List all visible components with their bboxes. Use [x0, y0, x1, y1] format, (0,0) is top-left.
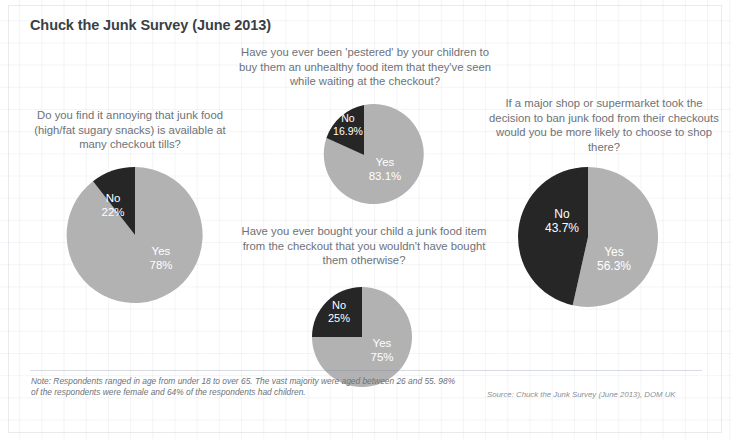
survey-note: Note: Respondents ranged in age from und… [31, 376, 461, 399]
question-bought-junk-food-otherwise-not: Have you ever bought your child a junk f… [236, 224, 492, 268]
footer-divider [30, 370, 702, 371]
pie-slice-no [312, 287, 362, 337]
source-attribution: Source: Chuck the Junk Survey (June 2013… [487, 389, 719, 400]
question-pestered-by-children: Have you ever been 'pestered' by your ch… [232, 45, 498, 89]
pie-chart-annoying-junk-food-at-tills[interactable]: No 22% Yes 78% [67, 167, 203, 303]
pie-svg-bought-junk-food-otherwise-not [312, 287, 412, 387]
pie-chart-would-shop-at-junk-free-checkout[interactable]: No 43.7% Yes 56.3% [518, 167, 658, 307]
pie-svg-would-shop-at-junk-free-checkout [518, 167, 658, 307]
infographic-canvas: Chuck the Junk Survey (June 2013) Do you… [0, 0, 731, 439]
pie-chart-pestered-by-children[interactable]: No 16.9% Yes 83.1% [314, 105, 414, 205]
page-title: Chuck the Junk Survey (June 2013) [30, 17, 271, 33]
question-would-shop-at-junk-free-checkout: If a major shop or supermarket took the … [484, 96, 724, 154]
pie-chart-bought-junk-food-otherwise-not[interactable]: No 25% Yes 75% [312, 287, 412, 387]
question-annoying-junk-food-at-tills: Do you find it annoying that junk food (… [24, 108, 236, 152]
pie-svg-annoying-junk-food-at-tills [67, 167, 203, 303]
pie-svg-pestered-by-children [314, 105, 414, 205]
